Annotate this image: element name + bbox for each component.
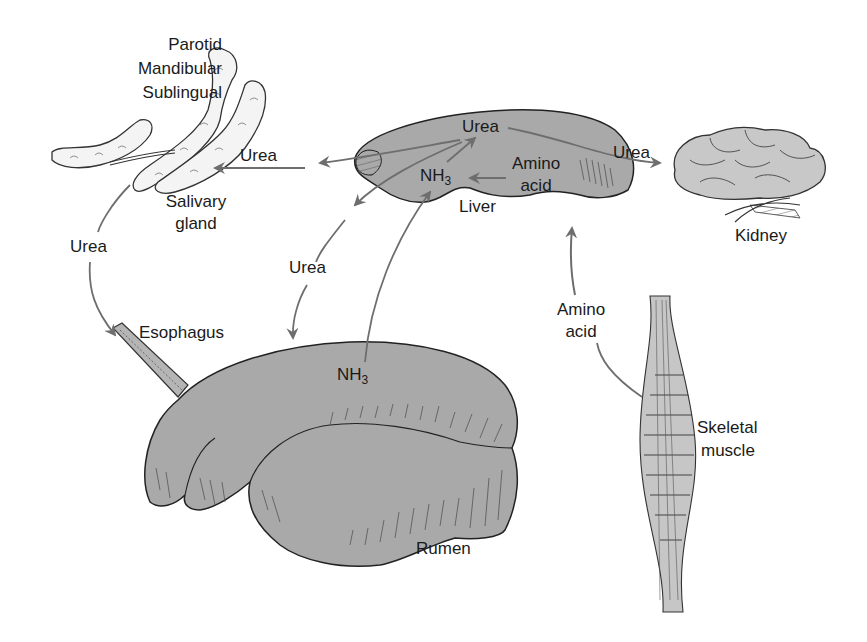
kidney-illustration — [674, 128, 825, 222]
label-skeletal: Skeletal — [697, 418, 757, 438]
label-liver: Liver — [459, 197, 496, 217]
arrow-liver-to-rumen-urea — [293, 220, 345, 338]
label-parotid: Parotid — [150, 35, 222, 55]
rumen-label-nh3: NH3 — [337, 365, 368, 385]
nh3-text: NH — [337, 365, 362, 384]
flow-label-urea-liver-to-rumen: Urea — [289, 258, 326, 278]
nh3-subscript: 3 — [362, 373, 369, 387]
flow-label-urea-to-salivary: Urea — [240, 146, 277, 166]
arrow-rumen-nh3-to-liver — [365, 192, 430, 362]
skeletal-muscle-illustration — [640, 296, 696, 612]
nh3-text: NH — [420, 166, 445, 185]
label-rumen: Rumen — [416, 539, 471, 559]
flow-label-acid: acid — [550, 322, 612, 342]
label-kidney: Kidney — [735, 226, 787, 246]
arrow-muscle-to-liver-amino — [597, 343, 642, 397]
flow-label-amino: Amino — [550, 300, 612, 320]
label-esophagus: Esophagus — [139, 323, 224, 343]
arrow-salivary-to-esophagus-urea — [90, 185, 130, 335]
label-muscle: muscle — [701, 441, 755, 461]
label-mandibular: Mandibular — [80, 59, 222, 79]
nh3-subscript: 3 — [445, 174, 452, 188]
rumen-illustration — [145, 342, 518, 566]
label-sublingual: Sublingual — [80, 83, 222, 103]
flow-label-urea-to-kidney: Urea — [613, 143, 650, 163]
label-salivary: Salivary — [158, 192, 234, 212]
label-gland: gland — [158, 214, 234, 234]
liver-label-urea: Urea — [462, 117, 499, 137]
liver-label-nh3: NH3 — [420, 166, 451, 186]
arrow-muscle-to-liver-amino-head — [571, 228, 575, 295]
flow-label-urea-salivary-to-esophagus: Urea — [70, 237, 107, 257]
liver-label-acid: acid — [505, 176, 567, 196]
liver-label-amino: Amino — [505, 154, 567, 174]
